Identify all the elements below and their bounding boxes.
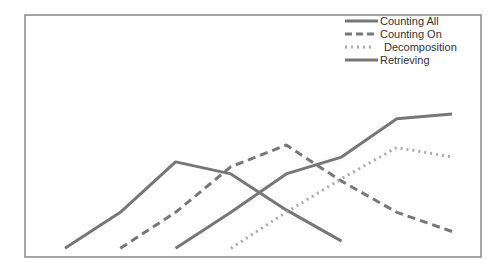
- legend-label-counting-all: Counting All: [380, 15, 439, 27]
- line-chart: Counting All Counting On Decomposition R…: [0, 0, 502, 260]
- legend-label-counting-on: Counting On: [380, 28, 442, 40]
- legend-label-retrieving: Retrieving: [380, 54, 430, 66]
- legend-label-decomposition: Decomposition: [384, 41, 457, 53]
